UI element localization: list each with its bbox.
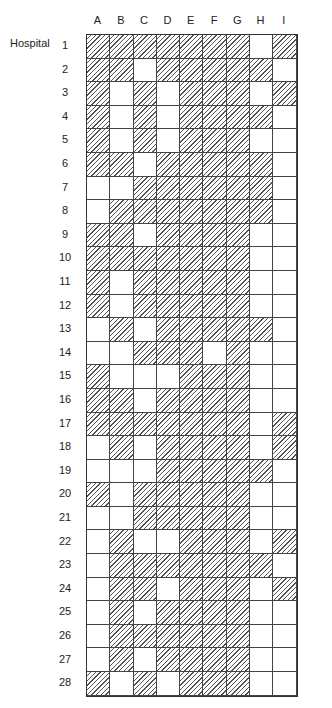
grid-cell-22-g <box>227 530 250 554</box>
grid-cell-11-f <box>203 271 226 295</box>
grid-cell-6-f <box>203 153 226 177</box>
grid-cell-10-e <box>180 247 203 271</box>
grid-cell-16-a <box>87 389 110 413</box>
grid-cell-19-h <box>250 460 273 484</box>
column-header-i: I <box>272 14 295 26</box>
grid-cell-4-i <box>273 106 296 130</box>
grid-cell-11-a <box>87 271 110 295</box>
grid-cell-18-e <box>180 436 203 460</box>
grid-cell-17-i <box>273 413 296 437</box>
grid-cell-9-c <box>134 224 157 248</box>
grid-cell-8-c <box>134 200 157 224</box>
grid-cell-26-d <box>157 625 180 649</box>
row-label: 20 <box>58 487 72 499</box>
row-label: 11 <box>58 275 72 287</box>
grid-cell-15-i <box>273 365 296 389</box>
grid-cell-27-b <box>110 648 133 672</box>
grid-cell-25-c <box>134 601 157 625</box>
row-label: 8 <box>58 204 72 216</box>
grid-cell-21-i <box>273 507 296 531</box>
grid-cell-13-e <box>180 318 203 342</box>
grid-cell-5-i <box>273 129 296 153</box>
grid-cell-11-c <box>134 271 157 295</box>
column-header-e: E <box>179 14 202 26</box>
grid-cell-18-c <box>134 436 157 460</box>
grid-cell-5-e <box>180 129 203 153</box>
grid-cell-10-b <box>110 247 133 271</box>
grid-cell-24-e <box>180 578 203 602</box>
row-label: 10 <box>58 251 72 263</box>
grid-cell-26-h <box>250 625 273 649</box>
grid-cell-16-i <box>273 389 296 413</box>
grid-cell-8-a <box>87 200 110 224</box>
grid-cell-20-f <box>203 483 226 507</box>
grid-cell-12-f <box>203 295 226 319</box>
row-axis-label: Hospital <box>10 37 50 49</box>
grid-cell-24-f <box>203 578 226 602</box>
grid-cell-16-g <box>227 389 250 413</box>
row-label: 4 <box>58 110 72 122</box>
grid-cell-9-d <box>157 224 180 248</box>
grid-cell-7-c <box>134 177 157 201</box>
grid-cell-22-b <box>110 530 133 554</box>
grid-cell-22-a <box>87 530 110 554</box>
grid-cell-18-i <box>273 436 296 460</box>
grid-cell-27-g <box>227 648 250 672</box>
grid-cell-25-f <box>203 601 226 625</box>
grid-cell-21-b <box>110 507 133 531</box>
grid-cell-26-b <box>110 625 133 649</box>
row-label: 16 <box>58 393 72 405</box>
column-header-c: C <box>133 14 156 26</box>
grid-cell-10-g <box>227 247 250 271</box>
grid-cell-11-e <box>180 271 203 295</box>
grid-cell-14-i <box>273 342 296 366</box>
column-header-b: B <box>109 14 132 26</box>
row-label: 25 <box>58 605 72 617</box>
grid-cell-2-a <box>87 59 110 83</box>
grid-cell-24-i <box>273 578 296 602</box>
grid-cell-9-e <box>180 224 203 248</box>
grid-cell-24-h <box>250 578 273 602</box>
grid-cell-3-c <box>134 82 157 106</box>
grid-cell-22-f <box>203 530 226 554</box>
row-label: 12 <box>58 299 72 311</box>
grid-cell-6-h <box>250 153 273 177</box>
grid-cell-12-b <box>110 295 133 319</box>
row-label: 18 <box>58 440 72 452</box>
grid-cell-26-f <box>203 625 226 649</box>
grid-cell-11-h <box>250 271 273 295</box>
grid-cell-21-d <box>157 507 180 531</box>
grid-cell-6-b <box>110 153 133 177</box>
grid-cell-4-e <box>180 106 203 130</box>
grid-cell-16-d <box>157 389 180 413</box>
grid-cell-28-b <box>110 672 133 696</box>
column-header-f: F <box>203 14 226 26</box>
grid-cell-2-c <box>134 59 157 83</box>
grid-cell-2-d <box>157 59 180 83</box>
grid-cell-28-e <box>180 672 203 696</box>
grid-cell-8-g <box>227 200 250 224</box>
grid-cell-7-h <box>250 177 273 201</box>
grid-cell-17-f <box>203 413 226 437</box>
grid-cell-25-d <box>157 601 180 625</box>
grid-cell-15-g <box>227 365 250 389</box>
grid-cell-10-d <box>157 247 180 271</box>
grid-cell-19-b <box>110 460 133 484</box>
grid-cell-20-b <box>110 483 133 507</box>
grid-cell-1-b <box>110 35 133 59</box>
grid-cell-15-c <box>134 365 157 389</box>
grid-cell-1-c <box>134 35 157 59</box>
grid-cell-10-h <box>250 247 273 271</box>
grid-cell-17-h <box>250 413 273 437</box>
row-label: 7 <box>58 181 72 193</box>
grid-cell-28-d <box>157 672 180 696</box>
row-label: 22 <box>58 535 72 547</box>
grid-cell-27-e <box>180 648 203 672</box>
grid-cell-9-g <box>227 224 250 248</box>
grid-cell-5-h <box>250 129 273 153</box>
grid-cell-11-b <box>110 271 133 295</box>
grid-cell-7-d <box>157 177 180 201</box>
row-label: 21 <box>58 511 72 523</box>
grid-cell-20-d <box>157 483 180 507</box>
grid-cell-23-e <box>180 554 203 578</box>
